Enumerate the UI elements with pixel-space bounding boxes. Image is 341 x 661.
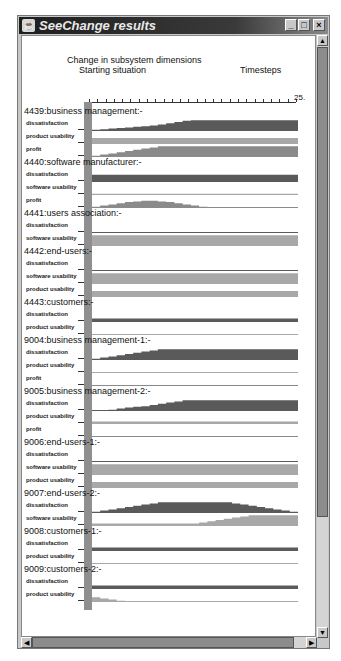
dimension-label: product usability — [26, 553, 74, 559]
dimension-label: product usability — [26, 362, 74, 368]
dimension-area-plot — [92, 169, 298, 182]
dimension-area-plot — [92, 258, 298, 271]
dimension-area-plot — [92, 118, 298, 131]
dimension-baseline-tick — [78, 282, 84, 283]
axis-tick — [197, 99, 198, 102]
axis-tick — [155, 99, 156, 102]
dimension-area-plot — [92, 284, 298, 297]
dimension-label: dissatisfaction — [26, 400, 68, 406]
subsystem-group-label: 4443:customers:- — [24, 297, 94, 307]
dimension-baseline-tick — [78, 562, 84, 563]
dimension-baseline-tick — [78, 155, 84, 156]
dimension-baseline-tick — [78, 435, 84, 436]
vertical-scrollbar[interactable]: ▲ ▼ — [317, 35, 328, 638]
dimension-area-plot — [92, 182, 298, 195]
dimension-baseline-tick — [78, 269, 84, 270]
dimension-area-plot — [92, 322, 298, 335]
dimension-area-plot — [92, 513, 298, 526]
axis-tick — [172, 99, 173, 102]
dimension-area-plot — [92, 373, 298, 386]
dimension-label: dissatisfaction — [26, 451, 68, 457]
dimension-area-plot — [92, 589, 298, 602]
dimension-baseline-tick — [78, 460, 84, 461]
subsystem-group-label: 9005:business management-2:- — [24, 386, 151, 396]
dimension-area-plot — [92, 144, 298, 157]
scroll-left-button[interactable]: ◀ — [21, 637, 32, 648]
dimension-label: profit — [26, 197, 41, 203]
dimension-label: profit — [26, 375, 41, 381]
axis-tick — [205, 99, 206, 102]
dimension-label: software usability — [26, 235, 77, 241]
dimension-label: dissatisfaction — [26, 171, 68, 177]
title-bar[interactable]: ☕ SeeChange results _ □ × — [19, 17, 328, 34]
scroll-down-button[interactable]: ▼ — [317, 627, 328, 638]
window-title: SeeChange results — [39, 18, 156, 33]
starting-situation-label: Starting situation — [79, 65, 146, 75]
dimension-label: product usability — [26, 286, 74, 292]
dimension-baseline-tick — [78, 409, 84, 410]
dimension-baseline-tick — [78, 333, 84, 334]
maximize-button[interactable]: □ — [298, 19, 310, 31]
dimension-label: product usability — [26, 324, 74, 330]
dimension-label: software usability — [26, 515, 77, 521]
dimension-area-plot — [92, 449, 298, 462]
dimension-label: dissatisfaction — [26, 120, 68, 126]
scroll-right-button[interactable]: ▶ — [306, 637, 317, 648]
dimension-area-plot — [92, 551, 298, 564]
dimension-baseline-tick — [78, 142, 84, 143]
dimension-baseline-tick — [78, 244, 84, 245]
subsystem-group-label: 9008:customers-1:- — [24, 526, 102, 536]
dimension-baseline-tick — [78, 422, 84, 423]
dimension-area-plot — [92, 271, 298, 284]
dimension-baseline-tick — [78, 231, 84, 232]
vertical-scroll-thumb[interactable] — [317, 47, 328, 517]
dimension-label: product usability — [26, 477, 74, 483]
dimension-baseline-tick — [78, 180, 84, 181]
horizontal-scroll-thumb[interactable] — [32, 637, 294, 648]
dimension-baseline-tick — [78, 511, 84, 512]
subsystem-group-label: 9006:end-users-1:- — [24, 437, 100, 447]
dimension-baseline-tick — [78, 358, 84, 359]
subsystem-group-label: 9004:business management-1:- — [24, 335, 151, 345]
horizontal-scrollbar[interactable]: ◀ ▶ — [21, 637, 317, 648]
axis-tick — [246, 99, 247, 102]
axis-tick — [180, 99, 181, 102]
dimension-area-plot — [92, 360, 298, 373]
dimension-label: product usability — [26, 133, 74, 139]
chart-canvas: Change in subsystem dimensions Starting … — [21, 35, 316, 637]
dimension-label: dissatisfaction — [26, 349, 68, 355]
dimension-area-plot — [92, 462, 298, 475]
max-timestep-label: 25. — [294, 93, 305, 102]
dimension-label: dissatisfaction — [26, 502, 68, 508]
dimension-baseline-tick — [78, 371, 84, 372]
dimension-label: dissatisfaction — [26, 311, 68, 317]
scroll-up-button[interactable]: ▲ — [317, 35, 328, 46]
dimension-baseline-tick — [78, 206, 84, 207]
minimize-button[interactable]: _ — [285, 19, 297, 31]
dimension-label: product usability — [26, 591, 74, 597]
dimension-label: dissatisfaction — [26, 540, 68, 546]
close-button[interactable]: × — [313, 19, 325, 31]
axis-tick — [122, 99, 123, 102]
dimension-baseline-tick — [78, 473, 84, 474]
dimension-baseline-tick — [78, 295, 84, 296]
dimension-area-plot — [92, 500, 298, 513]
subsystem-group-label: 4440:software manufacturer:- — [24, 157, 142, 167]
timesteps-label: Timesteps — [240, 65, 281, 75]
axis-tick — [230, 99, 231, 102]
dimension-baseline-tick — [78, 486, 84, 487]
dimension-label: profit — [26, 426, 41, 432]
dimension-area-plot — [92, 475, 298, 488]
dimension-area-plot — [92, 347, 298, 360]
dimension-area-plot — [92, 424, 298, 437]
dimension-area-plot — [92, 538, 298, 551]
dimension-label: dissatisfaction — [26, 578, 68, 584]
axis-tick — [263, 99, 264, 102]
axis-tick — [188, 99, 189, 102]
timestep-axis — [89, 102, 296, 103]
dimension-baseline-tick — [78, 320, 84, 321]
dimension-baseline-tick — [78, 587, 84, 588]
dimension-area-plot — [92, 398, 298, 411]
axis-tick — [106, 99, 107, 102]
dimension-baseline-tick — [78, 129, 84, 130]
